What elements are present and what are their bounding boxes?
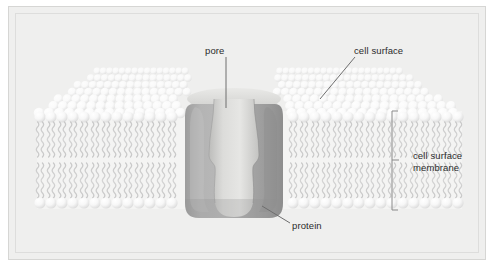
membrane-graphics <box>9 7 486 260</box>
diagram-screenshot: pore cell surface protein cell surface m… <box>0 0 494 269</box>
label-cell-surface: cell surface <box>354 45 403 57</box>
label-cell-surface-membrane: cell surface membrane <box>413 150 475 173</box>
label-protein: protein <box>292 220 322 232</box>
membrane-diagram: pore cell surface protein cell surface m… <box>9 7 486 260</box>
label-membrane-line1: cell surface <box>413 150 462 161</box>
label-pore: pore <box>205 45 224 57</box>
channel-protein <box>185 88 283 218</box>
label-membrane-line2: membrane <box>413 162 459 173</box>
diagram-frame: pore cell surface protein cell surface m… <box>8 6 486 260</box>
